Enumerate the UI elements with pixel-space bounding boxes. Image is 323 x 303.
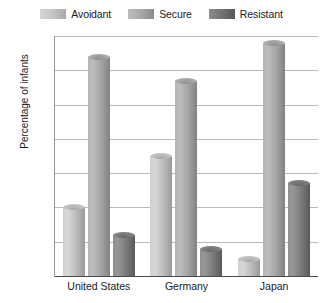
bar-body: [113, 235, 135, 276]
bar-body: [88, 57, 110, 276]
bar-cylinder-top: [88, 54, 110, 60]
x-label-japan: Japan: [230, 280, 318, 292]
legend-label-avoidant: Avoidant: [71, 9, 111, 20]
legend-swatch-secure-icon: [128, 9, 154, 19]
bar-groups: [55, 36, 318, 276]
plot-area: 706050403020100: [55, 36, 318, 276]
bar-cylinder-top: [238, 256, 260, 262]
bar-cylinder-top: [263, 40, 285, 46]
bar: [63, 207, 85, 276]
chart-legend: Avoidant Secure Resistant: [0, 4, 323, 24]
legend-label-resistant: Resistant: [240, 9, 283, 20]
legend-swatch-resistant-icon: [209, 9, 235, 19]
bar: [263, 43, 285, 276]
bar: [288, 183, 310, 276]
x-axis-line: [55, 276, 318, 277]
bar: [150, 156, 172, 276]
bar: [88, 57, 110, 276]
bar-cylinder-top: [113, 232, 135, 238]
bar-body: [63, 207, 85, 276]
legend-swatch-avoidant-icon: [40, 9, 66, 19]
x-label-germany: Germany: [143, 280, 231, 292]
bar-cylinder-top: [200, 246, 222, 252]
legend-item-resistant: Resistant: [209, 9, 283, 20]
bar-group: [55, 36, 143, 276]
bar-body: [200, 249, 222, 276]
bar-body: [288, 183, 310, 276]
bar: [200, 249, 222, 276]
bar-group: [143, 36, 231, 276]
bar-body: [150, 156, 172, 276]
bar-cylinder-top: [175, 78, 197, 84]
legend-item-avoidant: Avoidant: [40, 9, 111, 20]
bar: [238, 259, 260, 276]
bar-body: [175, 81, 197, 276]
x-axis-category-labels: United StatesGermanyJapan: [55, 280, 318, 300]
bar-body: [263, 43, 285, 276]
legend-label-secure: Secure: [159, 9, 192, 20]
x-label-united-states: United States: [55, 280, 143, 292]
y-axis-title: Percentage of infants: [19, 22, 30, 182]
bar: [113, 235, 135, 276]
bar: [175, 81, 197, 276]
legend-item-secure: Secure: [128, 9, 192, 20]
attachment-styles-bar-chart: Avoidant Secure Resistant Percentage of …: [0, 0, 323, 303]
bar-group: [230, 36, 318, 276]
